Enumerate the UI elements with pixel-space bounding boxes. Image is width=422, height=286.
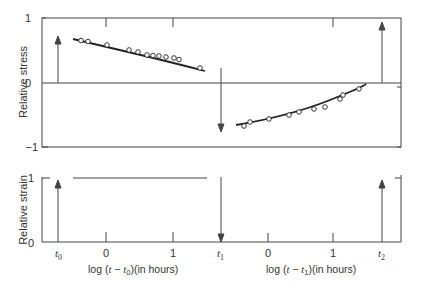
tick-t0: t0 bbox=[55, 247, 62, 262]
tick-0-right: 0 bbox=[265, 247, 271, 259]
strain-ylabel: Relative strain bbox=[17, 175, 29, 245]
strain-arrows bbox=[55, 177, 385, 242]
tick-t2: t2 bbox=[378, 247, 385, 262]
arrow-up-icon bbox=[379, 22, 385, 30]
stress-tick-1: 1 bbox=[25, 12, 31, 24]
creep-fit-curve bbox=[73, 39, 205, 71]
stress-tick-minus1: −1 bbox=[25, 141, 38, 153]
x-tick-labels: t0 0 1 t1 0 1 t2 bbox=[55, 247, 385, 262]
arrow-up-icon bbox=[379, 180, 385, 188]
xlabel-left: log (t − t0)(in hours) bbox=[88, 263, 178, 277]
arrow-down-icon bbox=[218, 234, 224, 242]
stress-strain-figure: 1 0 −1 Relative stress bbox=[0, 0, 422, 286]
xlabel-right: log (t − t1)(in hours) bbox=[266, 263, 356, 277]
arrow-up-icon bbox=[55, 180, 61, 188]
arrow-up-icon bbox=[55, 36, 61, 44]
stress-ylabel: Relative stress bbox=[17, 45, 29, 118]
recovery-fit-curve bbox=[236, 84, 366, 125]
tick-1-left: 1 bbox=[170, 247, 176, 259]
tick-t1: t1 bbox=[217, 247, 224, 262]
stress-arrows bbox=[55, 22, 385, 132]
recovery-data-points bbox=[242, 87, 362, 129]
tick-1-right: 1 bbox=[330, 247, 336, 259]
arrow-down-icon bbox=[218, 124, 224, 132]
tick-0-left: 0 bbox=[103, 247, 109, 259]
